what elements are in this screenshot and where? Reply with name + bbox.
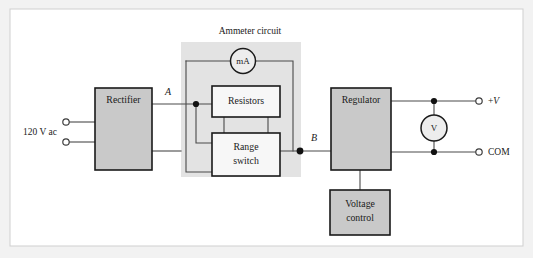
output-terminal-com-label: COM <box>488 147 510 157</box>
junction-node-a <box>193 101 199 107</box>
output-terminal-plus-v[interactable] <box>476 98 482 104</box>
block-regulator-label: Regulator <box>342 94 381 105</box>
source-terminal-top[interactable] <box>63 119 69 125</box>
source-label: 120 V ac <box>23 127 57 137</box>
circuit-diagram-canvas: Ammeter circuit Rectifier <box>0 0 533 258</box>
junction-node-voltmeter-bottom <box>431 149 437 155</box>
block-voltage-control-label-line1: Voltage <box>345 198 375 209</box>
milliammeter-label: mA <box>236 56 250 66</box>
junction-node-voltmeter-top <box>431 98 437 104</box>
source-terminal-bottom[interactable] <box>63 139 69 145</box>
voltmeter-label: V <box>431 123 438 133</box>
figure-root: Ammeter circuit Rectifier <box>0 0 533 258</box>
ammeter-circuit-title: Ammeter circuit <box>219 26 282 36</box>
block-range-switch-label-line1: Range <box>233 141 259 152</box>
output-terminal-com[interactable] <box>476 149 482 155</box>
block-rectifier-label: Rectifier <box>106 94 141 105</box>
node-label-b: B <box>311 132 317 143</box>
block-resistors-label: Resistors <box>228 95 264 106</box>
block-voltage-control-label-line2: control <box>346 212 374 223</box>
output-terminal-plus-v-label: +V <box>488 96 500 106</box>
node-label-a: A <box>164 86 172 97</box>
block-range-switch-label-line2: switch <box>233 155 259 166</box>
junction-node-b <box>297 148 304 155</box>
